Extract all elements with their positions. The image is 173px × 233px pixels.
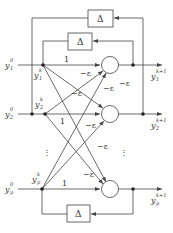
input-label-1: y 0 1 — [4, 57, 14, 71]
state-label-1: y k 1 — [33, 67, 42, 81]
svg-text:k+1: k+1 — [156, 192, 166, 198]
sum-node-p — [102, 181, 119, 198]
cross-connections — [42, 65, 106, 189]
output-label-1: y k+1 1 — [150, 68, 166, 82]
svg-text:0: 0 — [10, 106, 14, 112]
delay-loop-row2 — [32, 10, 143, 114]
delay-label-middle: Δ — [77, 37, 84, 47]
output-label-p: y k+1 p — [150, 192, 166, 207]
svg-text:k: k — [39, 67, 42, 73]
junction-row1-out — [131, 63, 135, 67]
svg-text:k: k — [37, 171, 40, 177]
sum-node-2 — [102, 106, 119, 123]
junction-row2-in — [43, 112, 47, 116]
weight-row2-self: 1 — [60, 117, 65, 126]
input-label-2: y 0 2 — [4, 106, 14, 120]
junction-rowp-out — [131, 187, 135, 191]
delay-loop-rowp — [42, 189, 133, 222]
weight-row1-self: 1 — [64, 55, 69, 64]
weight-cross-6: −ε — [83, 170, 94, 179]
network-diagram: Δ Δ Δ y 0 1 y 0 2 y 0 p y k 1 y k 2 y k … — [0, 0, 173, 233]
input-label-p: y 0 p — [4, 181, 14, 196]
svg-text:2: 2 — [39, 104, 43, 110]
svg-text:p: p — [156, 200, 160, 207]
svg-text:1: 1 — [156, 76, 159, 82]
weight-cross-2: −ε — [71, 89, 82, 98]
svg-text:1: 1 — [39, 75, 42, 81]
ellipsis-left: ⋮ — [43, 148, 51, 157]
delay-label-top: Δ — [97, 14, 104, 24]
delay-loop-row1 — [43, 33, 133, 65]
svg-text:k+1: k+1 — [156, 117, 166, 123]
weight-out-1: −ε — [119, 79, 130, 88]
junction-row2-loop — [30, 112, 34, 116]
svg-text:0: 0 — [10, 57, 14, 63]
junction-rowp-in — [40, 187, 44, 191]
output-label-2: y k+1 2 — [150, 117, 166, 131]
junction-row2-out — [141, 112, 145, 116]
svg-text:p: p — [10, 189, 14, 196]
delay-label-bottom: Δ — [75, 209, 82, 219]
weight-cross-1: −ε — [80, 69, 91, 78]
svg-text:k: k — [40, 96, 43, 102]
state-label-p: y k p — [31, 171, 41, 186]
svg-text:k+1: k+1 — [156, 68, 166, 74]
svg-text:2: 2 — [9, 114, 13, 120]
svg-text:1: 1 — [10, 65, 13, 71]
state-label-2: y k 2 — [34, 96, 43, 110]
weight-cross-3: −ε — [103, 84, 114, 93]
svg-text:0: 0 — [10, 181, 14, 187]
weight-rowp-self: 1 — [62, 179, 67, 188]
sum-node-1 — [102, 57, 119, 74]
weight-cross-4: −ε — [85, 121, 96, 130]
svg-text:p: p — [37, 179, 41, 186]
ellipsis-right: ⋮ — [120, 148, 128, 157]
weight-cross-5: −ε — [97, 142, 108, 151]
svg-text:2: 2 — [155, 125, 159, 131]
